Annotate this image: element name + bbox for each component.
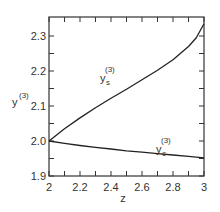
x-tick-label: 2.8 bbox=[165, 181, 180, 193]
y-tick-label: 2.0 bbox=[31, 135, 46, 147]
y-tick-label: 2.2 bbox=[31, 65, 46, 77]
yc-label-sub: c bbox=[162, 149, 166, 158]
y-axis-label-base: y bbox=[12, 96, 18, 108]
ys-label-sup: (3) bbox=[105, 65, 115, 74]
x-tick-label: 3 bbox=[201, 181, 207, 193]
y-tick-label: 2.1 bbox=[31, 100, 46, 112]
series-labels: ys(3)yc(3) bbox=[100, 65, 171, 158]
ys-label-sub: s bbox=[106, 78, 110, 87]
series-lines bbox=[49, 24, 204, 158]
x-tick-label: 2.2 bbox=[72, 181, 87, 193]
ys-curve bbox=[49, 24, 204, 141]
tick-labels: 22.22.42.62.831.92.02.12.22.3 bbox=[31, 30, 207, 193]
y-axis-label: y (3) bbox=[12, 91, 29, 108]
x-tick-label: 2.4 bbox=[103, 181, 118, 193]
x-tick-label: 2 bbox=[46, 181, 52, 193]
plot-frame bbox=[49, 17, 204, 176]
y-tick-label: 2.3 bbox=[31, 30, 46, 42]
line-chart: 22.22.42.62.831.92.02.12.22.3 ys(3)yc(3)… bbox=[0, 0, 220, 212]
yc-curve bbox=[49, 141, 204, 158]
x-tick-label: 2.6 bbox=[134, 181, 149, 193]
yc-label-sup: (3) bbox=[161, 136, 171, 145]
y-axis-label-sup: (3) bbox=[19, 91, 29, 100]
x-axis-label: z bbox=[120, 192, 126, 204]
axis-ticks bbox=[49, 17, 204, 176]
y-tick-label: 1.9 bbox=[31, 170, 46, 182]
